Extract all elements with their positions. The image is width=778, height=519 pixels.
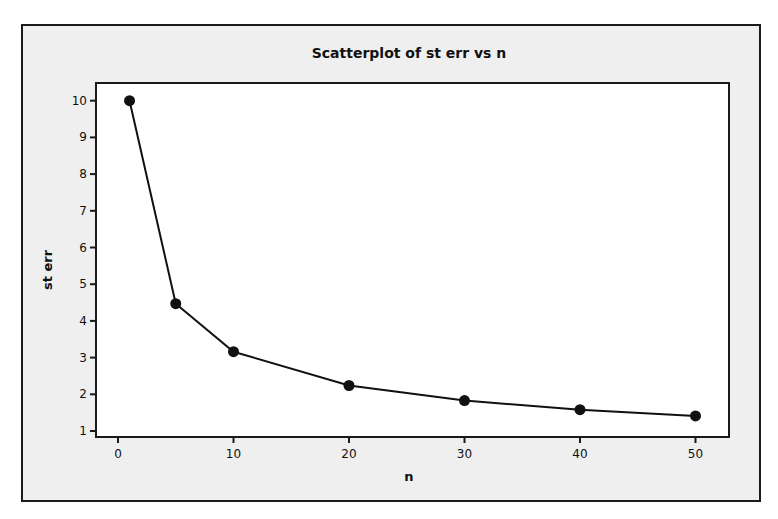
y-tick-label: 6 <box>79 241 87 255</box>
y-tick-label: 5 <box>79 277 87 291</box>
y-tick-label: 1 <box>79 424 87 438</box>
data-point <box>690 410 701 421</box>
y-tick-label: 2 <box>79 387 87 401</box>
data-point <box>124 95 135 106</box>
y-tick-label: 4 <box>79 314 87 328</box>
y-tick-label: 7 <box>79 204 87 218</box>
data-point <box>228 346 239 357</box>
x-axis: 01020304050 <box>114 437 703 461</box>
x-tick-label: 0 <box>114 447 122 461</box>
y-tick-label: 3 <box>79 351 87 365</box>
y-axis: 12345678910 <box>72 94 96 438</box>
y-tick-label: 10 <box>72 94 87 108</box>
x-axis-label: n <box>404 469 413 484</box>
data-point <box>575 404 586 415</box>
x-tick-label: 50 <box>688 447 703 461</box>
y-axis-label: st err <box>40 249 55 290</box>
plot-area <box>96 83 729 437</box>
x-tick-label: 30 <box>457 447 472 461</box>
x-tick-label: 20 <box>341 447 356 461</box>
y-tick-label: 9 <box>79 130 87 144</box>
data-point <box>170 298 181 309</box>
x-tick-label: 10 <box>226 447 241 461</box>
chart-title: Scatterplot of st err vs n <box>312 45 507 61</box>
data-point <box>459 395 470 406</box>
x-tick-label: 40 <box>572 447 587 461</box>
scatter-chart: Scatterplot of st err vs n 12345678910 0… <box>0 0 778 519</box>
y-tick-label: 8 <box>79 167 87 181</box>
data-point <box>344 380 355 391</box>
